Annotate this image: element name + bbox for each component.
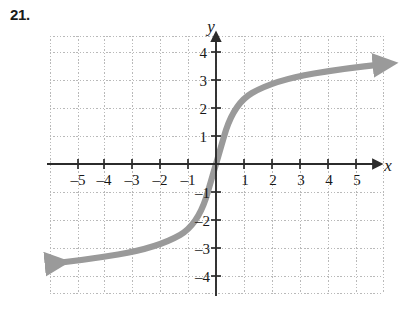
x-tick-label: –1 (180, 172, 196, 188)
y-tick-label: 3 (200, 73, 208, 89)
y-tick-label: –3 (194, 241, 210, 257)
x-tick-label: 3 (297, 172, 305, 188)
x-tick-label: –3 (124, 172, 140, 188)
y-axis-label: y (205, 17, 215, 36)
y-tick-label: 4 (200, 45, 208, 61)
y-tick-label: –4 (194, 269, 211, 285)
y-tick-label: –2 (194, 213, 210, 229)
x-tick-label: 5 (353, 172, 361, 188)
figure-container: 21. (0, 0, 415, 316)
x-tick-label: –5 (70, 172, 86, 188)
y-tick-label: 2 (200, 101, 208, 117)
x-tick-label: –2 (152, 172, 168, 188)
x-tick-label: 4 (325, 172, 333, 188)
x-tick-label: 2 (269, 172, 277, 188)
x-tick-label: 1 (241, 172, 249, 188)
y-tick-labels: 4 3 2 1 –1 –2 –3 –4 (194, 45, 211, 285)
y-tick-label: 1 (200, 129, 208, 145)
x-tick-label: –4 (96, 172, 113, 188)
coordinate-plane-chart: –5 –4 –3 –2 –1 1 2 3 4 5 4 3 2 1 –1 –2 –… (0, 0, 415, 316)
y-tick-label: –1 (194, 185, 210, 201)
plot-svg: –5 –4 –3 –2 –1 1 2 3 4 5 4 3 2 1 –1 –2 –… (0, 0, 415, 316)
x-axis-label: x (383, 156, 392, 175)
